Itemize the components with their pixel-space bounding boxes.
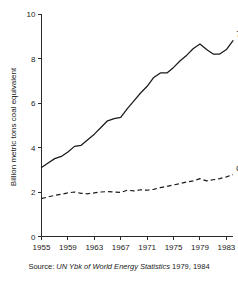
x-axis-tick-label: 1963 bbox=[85, 243, 103, 252]
x-axis-tick-label: 1971 bbox=[138, 243, 156, 252]
line-chart-plot: 0246810 19551959196319671971197519791983… bbox=[0, 0, 238, 287]
x-axis-tick-labels: 19551959196319671971197519791983 bbox=[33, 243, 236, 252]
source-publication: UN Ybk of World Energy Statistics bbox=[56, 262, 170, 271]
x-axis-tick-label: 1955 bbox=[33, 243, 51, 252]
y-axis-tick-label: 2 bbox=[31, 188, 36, 197]
series-line-total bbox=[42, 41, 234, 168]
x-axis-tick-label: 1967 bbox=[112, 243, 130, 252]
x-axis-tick-label: 1975 bbox=[165, 243, 183, 252]
source-caption: Source: UN Ybk of World Energy Statistic… bbox=[0, 262, 238, 272]
coal-series-label: Coal bbox=[236, 163, 238, 173]
y-axis-tick-label: 6 bbox=[31, 99, 36, 108]
series-line-coal bbox=[42, 175, 234, 199]
y-axis-tick-label: 10 bbox=[27, 10, 36, 19]
y-axis-tick-label: 8 bbox=[31, 55, 36, 64]
y-axis-tick-label: 0 bbox=[31, 233, 36, 242]
chart-figure: 0246810 19551959196319671971197519791983… bbox=[0, 0, 238, 287]
y-axis-title: Billion metric tons coal equivalent bbox=[9, 67, 18, 186]
y-axis-tick-label: 4 bbox=[31, 144, 36, 153]
total-series-label: Total bbox=[236, 29, 238, 39]
y-axis-tick-labels: 0246810 bbox=[27, 10, 36, 242]
source-years: 1979, 1984 bbox=[172, 262, 210, 271]
x-axis-tick-label: 1983 bbox=[217, 243, 235, 252]
source-prefix: Source: bbox=[28, 262, 54, 271]
x-axis-tick-label: 1979 bbox=[191, 243, 209, 252]
x-axis-tick-label: 1959 bbox=[59, 243, 77, 252]
